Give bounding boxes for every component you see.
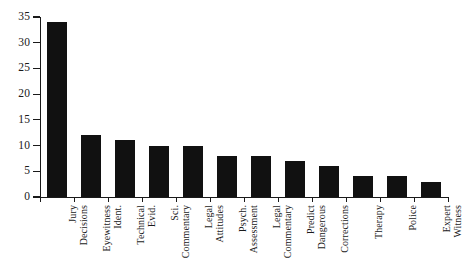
x-axis-category-label: Eyewitness Ident. (102, 205, 123, 275)
y-axis-tick-label: 15 (4, 114, 30, 126)
y-axis-tick (33, 196, 40, 197)
x-axis-tick (74, 197, 75, 202)
bar (47, 22, 66, 197)
x-axis-category-label: Legal Attitudes (204, 205, 225, 275)
y-axis-tick (33, 119, 40, 120)
x-axis-tick (210, 197, 211, 202)
x-axis-category-label: Psych. Assessment (238, 205, 259, 275)
bar (183, 146, 202, 197)
bar (285, 161, 304, 197)
y-axis-tick-label: 10 (4, 140, 30, 152)
x-axis-tick (176, 197, 177, 202)
x-axis-tick (40, 197, 41, 202)
x-axis-tick (278, 197, 279, 202)
bar (115, 140, 134, 197)
x-axis-category-label: Corrections (340, 205, 351, 275)
y-axis-tick-label: 5 (4, 165, 30, 177)
y-axis-tick-label: 0 (4, 191, 30, 203)
y-axis-tick (33, 16, 40, 17)
y-axis-tick-label: 30 (4, 37, 30, 49)
x-axis-tick (448, 197, 449, 202)
bar (81, 135, 100, 197)
bar (319, 166, 338, 197)
x-axis-category-label: Predict Dangerous (306, 205, 327, 275)
x-axis-category-label: Legal Commentary (272, 205, 293, 275)
bar (353, 176, 372, 197)
y-axis-tick (33, 94, 40, 95)
y-axis-tick-label: 25 (4, 62, 30, 74)
x-axis-tick (108, 197, 109, 202)
y-axis-tick-label: 35 (4, 11, 30, 23)
x-axis-category-label: Expert Witness (442, 205, 463, 275)
bar (251, 156, 270, 197)
x-axis-tick (142, 197, 143, 202)
x-axis-category-label: Therapy (374, 205, 385, 275)
y-axis-tick (33, 171, 40, 172)
x-axis-tick (312, 197, 313, 202)
y-axis-tick (33, 68, 40, 69)
bar (217, 156, 236, 197)
y-axis-tick (33, 42, 40, 43)
x-axis-category-label: Police (408, 205, 419, 275)
x-axis-tick (244, 197, 245, 202)
x-axis-tick (346, 197, 347, 202)
x-axis-category-label: Jury Decisions (68, 205, 89, 275)
bar (149, 146, 168, 197)
bar (421, 182, 440, 197)
y-axis-tick (33, 145, 40, 146)
bar (387, 176, 406, 197)
x-axis-category-label: Technical Evid. (136, 205, 157, 275)
x-axis-tick (380, 197, 381, 202)
x-axis-category-label: Sci. Commentary (170, 205, 191, 275)
x-axis-tick (414, 197, 415, 202)
y-axis-tick-label: 20 (4, 88, 30, 100)
